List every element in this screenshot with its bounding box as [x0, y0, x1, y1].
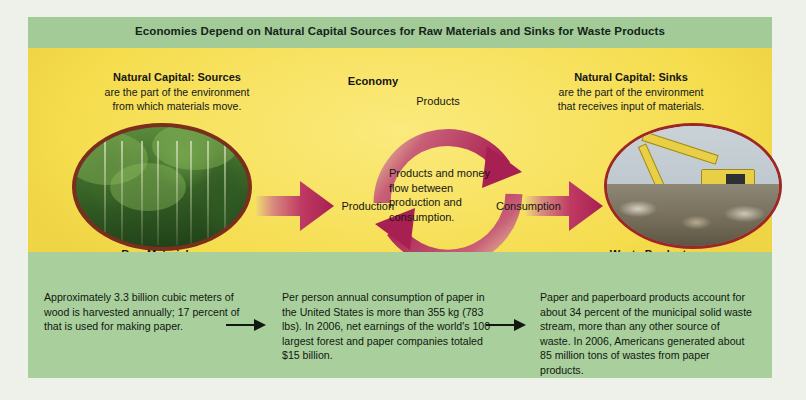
forest-photo: [72, 123, 252, 251]
landfill-rubble: [607, 184, 779, 246]
sinks-heading: Natural Capital: Sinks: [506, 70, 756, 85]
fact-paper-waste: Paper and paperboard products account fo…: [540, 290, 752, 378]
sinks-heading-block: Natural Capital: Sinks are the part of t…: [506, 70, 756, 114]
title-band: Economies Depend on Natural Capital Sour…: [28, 17, 772, 48]
infographic-figure: Economies Depend on Natural Capital Sour…: [28, 17, 772, 378]
small-right-arrow-icon: [486, 318, 526, 332]
sinks-line-2: are the part of the environment: [506, 85, 756, 100]
fact-paper-consumption: Per person annual consumption of paper i…: [282, 290, 492, 363]
cycle-center-text: Products and money flow between producti…: [389, 166, 493, 224]
facts-panel: Approximately 3.3 billion cubic meters o…: [28, 252, 772, 378]
economy-label: Economy: [318, 75, 428, 87]
figure-title: Economies Depend on Natural Capital Sour…: [28, 25, 772, 37]
small-right-arrow-icon: [226, 318, 266, 332]
landfill-photo: [604, 123, 782, 249]
cycle-label-products: Products: [383, 95, 493, 107]
sources-heading-block: Natural Capital: Sources are the part of…: [52, 70, 302, 114]
natural-capital-panel: Natural Capital: Sources are the part of…: [28, 48, 772, 252]
sources-line-3: from which materials move.: [52, 99, 302, 114]
sources-heading: Natural Capital: Sources: [52, 70, 302, 85]
sources-line-2: are the part of the environment: [52, 85, 302, 100]
cycle-label-production: Production: [320, 200, 394, 212]
sinks-line-3: that receives input of materials.: [506, 99, 756, 114]
fact-wood-harvest: Approximately 3.3 billion cubic meters o…: [44, 290, 244, 334]
cycle-label-consumption: Consumption: [496, 200, 588, 212]
